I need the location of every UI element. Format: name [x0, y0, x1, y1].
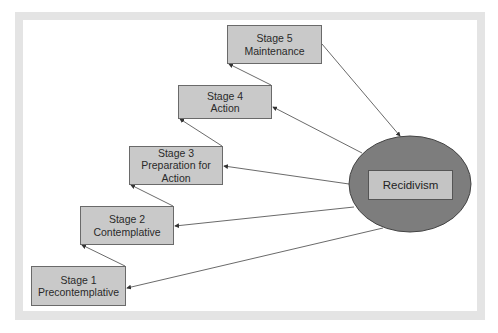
arrow-s2-s3: [131, 185, 173, 206]
arrow-recidivism-s3: [224, 166, 349, 184]
stage-2-title: Stage 2: [109, 213, 145, 226]
stage-1-title: Stage 1: [60, 274, 96, 287]
stage-4-box: Stage 4 Action: [178, 85, 272, 119]
stage-4-title: Stage 4: [207, 90, 243, 103]
stage-5-title: Stage 5: [256, 32, 292, 45]
arrow-s4-s5: [229, 64, 271, 85]
stage-1-box: Stage 1 Precontemplative: [31, 266, 126, 306]
stage-2-box: Stage 2 Contemplative: [80, 206, 174, 245]
recidivism-box: Recidivism: [368, 170, 453, 200]
stage-3-name-line2: Action: [161, 172, 190, 185]
arrow-recidivism-s2: [175, 207, 354, 226]
recidivism-label: Recidivism: [383, 179, 439, 191]
stage-2-name: Contemplative: [93, 226, 160, 239]
arrow-s3-s4: [180, 119, 222, 146]
stage-4-name: Action: [210, 102, 239, 115]
stage-5-name: Maintenance: [244, 45, 304, 58]
stage-3-box: Stage 3 Preparation for Action: [129, 146, 223, 185]
arrow-recidivism-s4: [273, 107, 362, 153]
stage-3-title: Stage 3: [158, 147, 194, 160]
arrow-s1-s2: [82, 245, 125, 266]
arrow-s5-recidivism: [322, 44, 400, 136]
stage-1-name: Precontemplative: [38, 286, 119, 299]
stage-5-box: Stage 5 Maintenance: [227, 25, 322, 64]
stage-3-name-line1: Preparation for: [141, 159, 210, 172]
